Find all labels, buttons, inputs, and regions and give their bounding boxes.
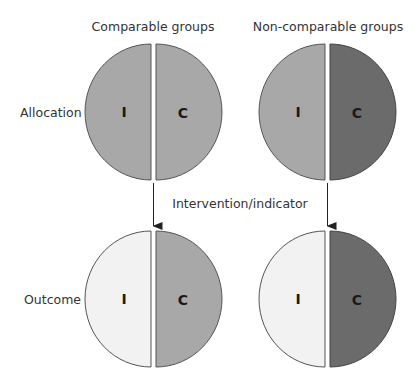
circle-outcome-noncomparable: I C [259,231,396,367]
label-control: C [352,105,362,121]
half-intervention [259,44,325,180]
half-control [156,231,222,367]
half-control [330,44,396,180]
row-label-allocation: Allocation [20,105,82,120]
column-header-comparable: Comparable groups [92,19,215,34]
label-control: C [178,105,188,121]
label-intervention: I [121,291,126,307]
label-intervention: I [295,104,300,120]
circle-allocation-noncomparable: I C [259,44,396,180]
half-intervention [85,44,151,180]
label-control: C [352,292,362,308]
row-label-outcome: Outcome [24,292,81,307]
half-control [156,44,222,180]
circle-outcome-comparable: I C [85,231,222,367]
label-intervention: I [295,291,300,307]
column-header-noncomparable: Non-comparable groups [253,19,403,34]
half-intervention [259,231,325,367]
half-control [330,231,396,367]
label-control: C [178,292,188,308]
arrow-label-intervention-indicator: Intervention/indicator [172,196,308,211]
half-intervention [85,231,151,367]
comparability-diagram: Comparable groups Non-comparable groups … [0,0,417,388]
circle-allocation-comparable: I C [85,44,222,180]
label-intervention: I [121,104,126,120]
